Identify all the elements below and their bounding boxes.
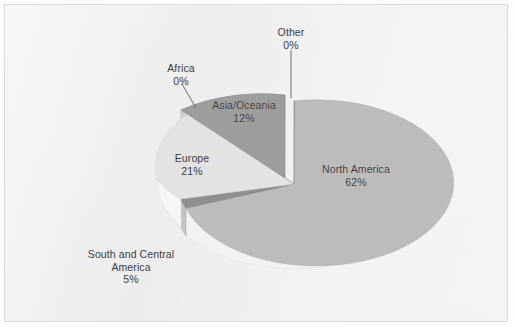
slice-label-south-central-america-name-line2: America [63, 261, 199, 274]
slice-label-europe-name: Europe [175, 152, 209, 164]
slice-label-south-central-america-value: 5% [63, 273, 199, 286]
pie-chart-figure: Other 0% Africa 0% Asia/Oceania 12% Euro… [0, 0, 514, 327]
slice-label-asia-oceania-name: Asia/Oceania [212, 99, 276, 111]
slice-label-asia-oceania: Asia/Oceania 12% [199, 99, 289, 124]
slice-label-africa: Africa 0% [150, 62, 212, 87]
slice-label-asia-oceania-value: 12% [199, 112, 289, 125]
slice-label-north-america-name: North America [322, 163, 390, 175]
slice-label-north-america-value: 62% [304, 176, 408, 189]
slice-label-other-value: 0% [259, 39, 323, 52]
slice-label-europe-value: 21% [158, 165, 226, 178]
slice-label-other: Other 0% [259, 26, 323, 51]
slice-label-south-central-america: South and Central America 5% [63, 248, 199, 286]
leader-line-africa [182, 84, 196, 108]
slice-label-africa-value: 0% [150, 75, 212, 88]
slice-label-south-central-america-name-line1: South and Central [88, 248, 174, 260]
slice-label-other-name: Other [278, 26, 305, 38]
slice-label-africa-name: Africa [167, 62, 194, 74]
slice-label-north-america: North America 62% [304, 163, 408, 188]
slice-label-europe: Europe 21% [158, 152, 226, 177]
